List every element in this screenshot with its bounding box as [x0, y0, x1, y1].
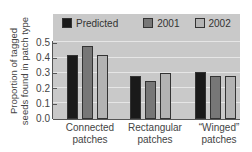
y-axis-title-line: seeds found in patch type: [19, 16, 30, 126]
bar-2001-1: [145, 81, 156, 119]
x-category-label: Rectangular patches: [120, 122, 190, 146]
x-label-line: Connected: [55, 122, 125, 134]
legend-swatch: [62, 18, 72, 28]
x-label-line: patches: [184, 134, 252, 146]
legend-item-2002: 2002: [195, 18, 231, 29]
bar-predicted-1: [130, 76, 141, 119]
y-axis: [52, 41, 53, 119]
x-category-label: “Winged” patches: [184, 122, 252, 146]
bar-predicted-0: [67, 55, 78, 119]
legend-label: 2001: [157, 18, 179, 29]
bar-predicted-2: [195, 72, 206, 119]
y-tick-mark: [53, 104, 57, 105]
x-label-line: Rectangular: [120, 122, 190, 134]
bar-2002-0: [97, 55, 108, 119]
bar-2002-1: [160, 73, 171, 119]
legend-item-predicted: Predicted: [62, 18, 118, 29]
legend-label: Predicted: [76, 18, 118, 29]
x-axis: [53, 119, 240, 120]
y-tick-mark: [53, 73, 57, 74]
bar-2001-2: [210, 76, 221, 119]
x-category-label: Connected patches: [55, 122, 125, 146]
legend: Predicted 2001 2002: [62, 17, 237, 29]
legend-swatch: [143, 18, 153, 28]
legend-item-2001: 2001: [143, 18, 179, 29]
legend-swatch: [195, 18, 205, 28]
y-tick-mark: [53, 43, 57, 44]
y-tick-mark: [53, 58, 57, 59]
x-label-line: patches: [55, 134, 125, 146]
x-label-line: patches: [120, 134, 190, 146]
gridline-0.5: [53, 41, 240, 42]
y-tick-mark: [53, 88, 57, 89]
y-axis-title-line: Proportion of tagged: [8, 16, 19, 126]
y-axis-title: Proportion of tagged seeds found in patc…: [8, 16, 30, 126]
bar-2001-0: [82, 46, 93, 119]
bar-2002-2: [225, 76, 236, 119]
x-label-line: “Winged”: [184, 122, 252, 134]
legend-label: 2002: [209, 18, 231, 29]
